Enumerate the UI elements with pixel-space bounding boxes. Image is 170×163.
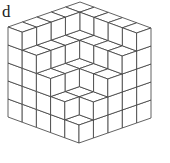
cube-staircase-diagram	[0, 0, 170, 163]
